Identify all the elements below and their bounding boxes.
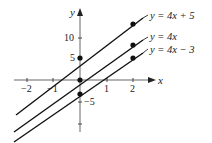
x-tick-label: 2 bbox=[130, 83, 135, 94]
line-label-4x-plus-5: y = 4x + 5 bbox=[149, 10, 195, 21]
x-tick-label: −2 bbox=[21, 83, 32, 94]
y-axis-label: y bbox=[69, 6, 75, 18]
line-4x bbox=[14, 40, 143, 132]
y-tick-label: 5 bbox=[70, 52, 75, 63]
line-chart: −2 −1 1 2 10 5 −5 x y y = 4x + 5 y = 4x … bbox=[0, 0, 212, 143]
y-tick-label: 10 bbox=[64, 32, 74, 43]
x-axis-arrow-icon bbox=[148, 77, 156, 83]
y-tick-label: −5 bbox=[84, 96, 95, 107]
line-labels: y = 4x + 5 y = 4x y = 4x − 3 bbox=[149, 10, 195, 55]
x-tick-label: 1 bbox=[104, 83, 109, 94]
point-2-13 bbox=[130, 21, 135, 26]
point-0-0 bbox=[77, 77, 82, 82]
point-0-m3 bbox=[77, 91, 82, 96]
line-label-4x-minus-3: y = 4x − 3 bbox=[149, 44, 195, 55]
line-label-4x: y = 4x bbox=[149, 31, 177, 42]
line-4x-minus-3 bbox=[14, 53, 143, 142]
axes bbox=[14, 8, 156, 132]
x-axis-label: x bbox=[157, 74, 163, 86]
point-0-5 bbox=[77, 55, 82, 60]
point-2-5 bbox=[130, 55, 135, 60]
label-leaders bbox=[143, 15, 148, 53]
point-2-8 bbox=[130, 42, 135, 47]
y-axis-arrow-icon bbox=[77, 8, 83, 16]
